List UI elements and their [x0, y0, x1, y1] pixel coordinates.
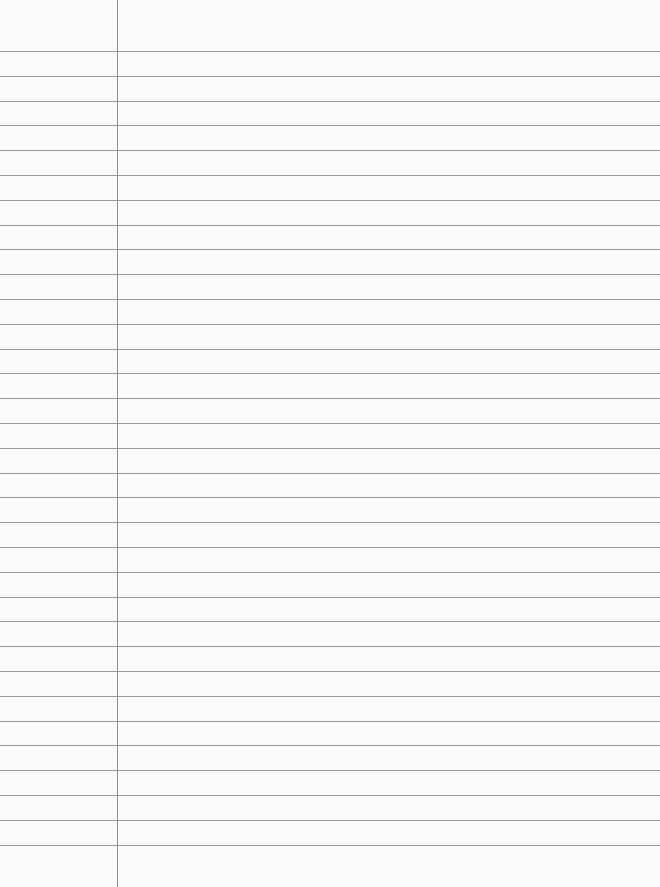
ruled-line [0, 597, 660, 598]
ruled-line [0, 398, 660, 399]
ruled-line [0, 225, 660, 226]
ruled-line [0, 473, 660, 474]
ruled-line [0, 646, 660, 647]
ruled-line [0, 324, 660, 325]
ruled-line [0, 101, 660, 102]
ruled-line [0, 621, 660, 622]
ruled-line [0, 448, 660, 449]
ruled-line [0, 51, 660, 52]
lined-paper [0, 0, 660, 887]
ruled-line [0, 373, 660, 374]
ruled-line [0, 696, 660, 697]
ruled-line [0, 299, 660, 300]
ruled-line [0, 76, 660, 77]
ruled-line [0, 175, 660, 176]
ruled-line [0, 721, 660, 722]
ruled-line [0, 349, 660, 350]
ruled-line [0, 125, 660, 126]
ruled-line [0, 522, 660, 523]
ruled-line [0, 820, 660, 821]
ruled-line [0, 423, 660, 424]
ruled-line [0, 547, 660, 548]
ruled-line [0, 200, 660, 201]
ruled-line [0, 845, 660, 846]
ruled-line [0, 572, 660, 573]
ruled-line [0, 274, 660, 275]
ruled-line [0, 671, 660, 672]
ruled-line [0, 745, 660, 746]
ruled-line [0, 150, 660, 151]
ruled-line [0, 249, 660, 250]
margin-line [117, 0, 118, 887]
ruled-line [0, 795, 660, 796]
ruled-line [0, 497, 660, 498]
ruled-line [0, 770, 660, 771]
